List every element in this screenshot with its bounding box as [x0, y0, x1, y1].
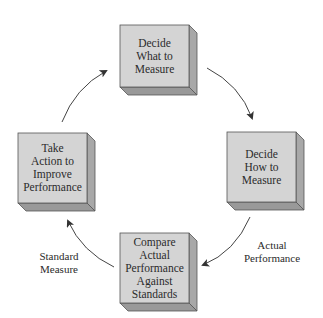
- label-line: What to: [135, 50, 175, 63]
- label-line: Compare: [125, 236, 184, 249]
- label-line: Performance: [227, 252, 317, 265]
- label-line: Performance: [23, 181, 82, 194]
- label-line: How to: [242, 161, 282, 174]
- label-line: Standard: [24, 250, 94, 263]
- label-line: Against: [125, 275, 184, 288]
- box-decide-how-label: Decide How to Measure: [227, 132, 296, 202]
- box-take-action-label: Take Action to Improve Performance: [18, 133, 87, 203]
- label-line: Measure: [242, 174, 282, 187]
- label-line: Measure: [135, 63, 175, 76]
- label-line: Performance: [125, 262, 184, 275]
- edge-label-actual-performance: Actual Performance: [227, 239, 317, 265]
- arrow-what-to-how: [207, 68, 252, 118]
- box-decide-what-label: Decide What to Measure: [120, 25, 189, 87]
- label-line: Decide: [242, 148, 282, 161]
- label-line: Measure: [24, 263, 94, 276]
- box-compare-label: Compare Actual Performance Against Stand…: [120, 233, 189, 303]
- label-line: Action to: [23, 155, 82, 168]
- label-line: Standards: [125, 288, 184, 301]
- label-line: Improve: [23, 168, 82, 181]
- arrow-action-to-what: [62, 71, 106, 122]
- label-line: Actual: [227, 239, 317, 252]
- label-line: Take: [23, 142, 82, 155]
- label-line: Decide: [135, 37, 175, 50]
- label-line: Actual: [125, 249, 184, 262]
- edge-label-standard-measure: Standard Measure: [24, 250, 94, 276]
